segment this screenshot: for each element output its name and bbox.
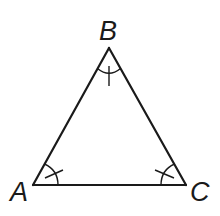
angle-arc-c [161,164,175,185]
vertex-label-c: C [190,177,210,207]
angle-mark-a [45,164,64,185]
angle-mark-c [155,164,175,185]
angle-mark-b [98,66,121,86]
vertex-label-a: A [8,177,28,207]
vertex-label-b: B [99,16,117,46]
triangle-diagram: B A C [0,0,220,216]
